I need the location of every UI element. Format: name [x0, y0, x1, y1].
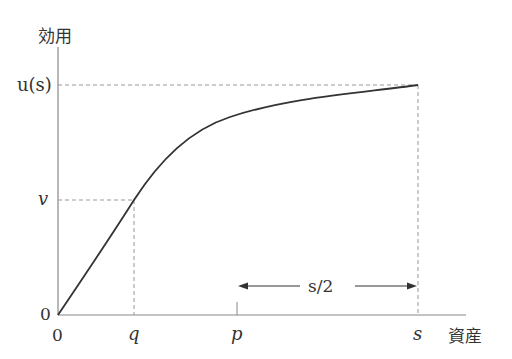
- arrow-left-head: [238, 283, 248, 290]
- tick-q-label: q: [128, 323, 140, 344]
- tick-p-label: p: [231, 323, 243, 344]
- arrow-right-head: [407, 283, 417, 290]
- half-s-label: s/2: [308, 276, 333, 296]
- x-axis-label: 資産: [448, 326, 482, 346]
- tick-us-label: u(s): [17, 74, 52, 95]
- utility-diagram: 効用 資産 u(s) v 0 0 q p s s/2: [0, 0, 512, 359]
- y-axis-label: 効用: [38, 26, 72, 46]
- tick-s-label: s: [413, 323, 422, 344]
- origin-y-label: 0: [40, 304, 51, 324]
- utility-curve: [58, 85, 418, 315]
- tick-v-label: v: [38, 188, 48, 209]
- origin-x-label: 0: [52, 325, 63, 345]
